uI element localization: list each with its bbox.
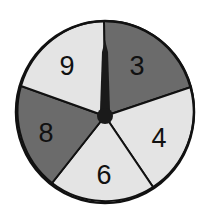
spinner: 3 4 6 8 9 (0, 0, 215, 220)
section-label-6: 6 (96, 160, 111, 190)
section-label-3: 3 (129, 51, 144, 81)
section-label-4: 4 (151, 123, 166, 153)
pointer-hub (97, 108, 113, 124)
section-label-8: 8 (38, 118, 53, 148)
section-label-9: 9 (59, 51, 74, 81)
